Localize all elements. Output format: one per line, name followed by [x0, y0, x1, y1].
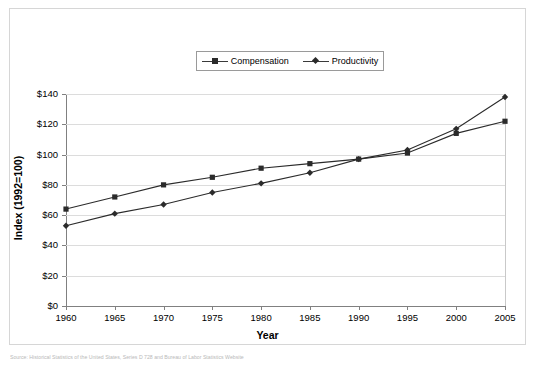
data-point-compensation	[259, 166, 264, 171]
data-point-productivity	[63, 223, 69, 229]
series-line-compensation	[66, 121, 505, 209]
data-point-productivity	[502, 94, 508, 100]
data-point-compensation	[210, 175, 215, 180]
x-axis-title: Year	[0, 329, 535, 341]
data-point-compensation	[112, 194, 117, 199]
series-line-productivity	[66, 97, 505, 226]
data-point-productivity	[258, 180, 264, 186]
chart-figure: Compensation Productivity $0$20$40$60$80…	[0, 0, 535, 368]
series-layer	[0, 0, 535, 368]
data-point-productivity	[160, 201, 166, 207]
data-point-productivity	[307, 170, 313, 176]
data-point-productivity	[209, 189, 215, 195]
data-point-productivity	[112, 210, 118, 216]
data-point-compensation	[63, 206, 68, 211]
data-point-compensation	[161, 182, 166, 187]
data-point-compensation	[307, 161, 312, 166]
figure-caption: Source: Historical Statistics of the Uni…	[10, 354, 530, 360]
data-point-compensation	[502, 119, 507, 124]
y-axis-title: Index (1992=100)	[12, 128, 24, 268]
